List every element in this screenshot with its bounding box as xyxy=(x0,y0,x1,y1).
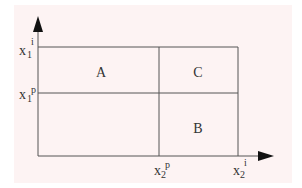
y-tick-x1-i: x 1 i xyxy=(19,36,34,60)
tick-sub: 1 xyxy=(27,49,32,60)
region-a-label: A xyxy=(96,65,107,80)
x-axis-arrow-icon xyxy=(258,151,274,161)
diagram: A C B x 1 i x 1 p x 2 p x 2 i xyxy=(0,0,302,188)
region-c-label: C xyxy=(193,65,202,80)
tick-base: x xyxy=(19,43,26,58)
tick-base: x xyxy=(19,87,26,102)
y-axis-arrow-icon xyxy=(33,16,43,32)
x-tick-x2-i: x 2 i xyxy=(233,157,247,180)
y-tick-x1-p: x 1 p xyxy=(19,84,36,104)
region-b-label: B xyxy=(193,121,202,136)
tick-sup: i xyxy=(31,36,34,47)
tick-sup: p xyxy=(165,159,170,170)
x-tick-x2-p: x 2 p xyxy=(154,159,170,180)
tick-sub: 2 xyxy=(161,169,166,180)
tick-base: x xyxy=(154,163,161,178)
tick-sub: 2 xyxy=(240,169,245,180)
tick-base: x xyxy=(233,163,240,178)
tick-sup: p xyxy=(31,84,36,95)
tick-sup: i xyxy=(244,157,247,168)
